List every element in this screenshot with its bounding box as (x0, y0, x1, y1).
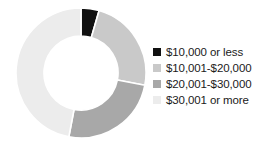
donut-chart-plot-area (14, 6, 148, 140)
donut-slice (16, 8, 81, 137)
legend-label-10000-or-less: $10,000 or less (166, 46, 243, 59)
donut-slice (69, 80, 145, 138)
legend-item-20001-30000: $20,001-$30,000 (153, 76, 271, 92)
donut-chart-svg (14, 6, 148, 140)
legend-swatch-icon-10000-or-less (153, 48, 161, 56)
donut-slice-group (16, 8, 146, 138)
legend-item-30001-or-more: $30,001 or more (153, 92, 271, 108)
legend-swatch-icon-20001-30000 (153, 80, 161, 88)
donut-slice (91, 11, 146, 86)
legend-item-10001-20000: $10,001-$20,000 (153, 60, 271, 76)
legend-label-20001-30000: $20,001-$30,000 (166, 78, 251, 91)
legend-label-30001-or-more: $30,001 or more (166, 94, 249, 107)
legend-swatch-icon-10001-20000 (153, 64, 161, 72)
legend-label-10001-20000: $10,001-$20,000 (166, 62, 251, 75)
legend-item-10000-or-less: $10,000 or less (153, 44, 271, 60)
donut-chart-figure: $10,000 or less $10,001-$20,000 $20,001-… (0, 0, 271, 147)
legend-swatch-icon-30001-or-more (153, 96, 161, 104)
chart-legend: $10,000 or less $10,001-$20,000 $20,001-… (153, 44, 271, 108)
